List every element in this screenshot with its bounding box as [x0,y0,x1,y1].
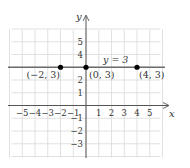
y-tick-label: 4 [78,50,83,60]
point-label: (−2, 3) [27,69,61,80]
y-tick-label: −3 [70,139,83,149]
point-label: (0, 3) [89,69,115,80]
x-tick-label: −4 [29,108,42,118]
coordinate-plane: x y −5−4−3−2−1123455421−1−2−3 (−2, 3)(0,… [0,0,190,168]
y-tick-label: −2 [70,126,83,136]
x-tick-label: −2 [54,108,67,118]
x-tick-label: 3 [122,108,127,118]
y-tick-label: 1 [78,88,83,98]
x-tick-label: 2 [109,108,114,118]
y-tick-label: −1 [70,113,83,123]
x-tick-label: −5 [16,108,29,118]
x-tick-label: 4 [134,108,139,118]
y-tick-label: 5 [78,37,83,47]
x-tick-label: 1 [96,108,101,118]
x-axis-label: x [169,108,175,119]
y-tick-label: 2 [78,75,83,85]
point-label: (4, 3) [139,69,165,80]
equation-label: y = 3 [102,54,128,65]
x-tick-label: 5 [147,108,152,118]
data-point [83,65,88,70]
y-axis-label: y [75,11,82,22]
x-tick-label: −3 [41,108,54,118]
